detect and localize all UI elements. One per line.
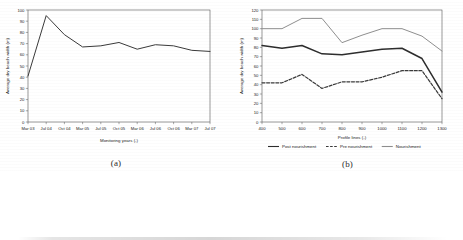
y-axis-label-b: Average dry beach width (m) — [239, 37, 244, 94]
y-tick-label: 20 — [254, 101, 259, 106]
x-axis-ticks-a: Mar 03Jul 04Oct 04Mar 05Jul 05Oct 05Mar … — [21, 122, 216, 131]
y-tick-label: 70 — [20, 41, 25, 46]
y-tick-label: 80 — [254, 45, 259, 50]
y-tick-label: 40 — [254, 82, 259, 87]
x-tick-label: Oct 06 — [167, 126, 180, 131]
x-tick-label: Mar 07 — [185, 126, 199, 131]
y-tick-label: 50 — [254, 73, 259, 78]
x-tick-label: Oct 04 — [58, 126, 71, 131]
chart-panel-a: 0102030405060708090100 Mar 03Jul 04Oct 0… — [0, 0, 232, 171]
x-tick-label: 800 — [339, 126, 347, 131]
legend-label: Nourishment — [396, 144, 422, 149]
y-tick-label: 30 — [254, 92, 259, 97]
y-tick-label: 20 — [20, 97, 25, 102]
x-tick-label: Mar 06 — [131, 126, 145, 131]
plot-frame — [262, 10, 442, 122]
y-tick-label: 80 — [20, 30, 25, 35]
x-tick-label: Jul 04 — [41, 126, 53, 131]
y-tick-label: 90 — [20, 19, 25, 24]
y-tick-label: 70 — [254, 54, 259, 59]
y-tick-label: 40 — [20, 75, 25, 80]
x-axis-label-b: Profile lines (-) — [338, 135, 367, 140]
y-tick-label: 0 — [22, 120, 25, 125]
x-tick-label: Jul 06 — [150, 126, 162, 131]
series-line — [262, 45, 442, 92]
chart-panel-b: 0102030405060708090100110120 40050060070… — [232, 0, 463, 171]
y-tick-label: 100 — [251, 26, 259, 31]
y-tick-label: 110 — [252, 17, 259, 22]
x-tick-label: 400 — [259, 126, 267, 131]
y-axis-ticks-b: 0102030405060708090100110120 — [251, 8, 262, 125]
x-tick-label: Mar 05 — [76, 126, 90, 131]
panel-caption-b: (b) — [232, 159, 463, 169]
panel-caption-a: (a) — [0, 158, 232, 168]
legend-label: Post nourishment — [282, 144, 317, 149]
y-tick-label: 90 — [254, 36, 259, 41]
x-axis-label-a: Monitoring years (-) — [100, 138, 139, 143]
series-line — [262, 18, 442, 51]
y-tick-label: 100 — [17, 8, 25, 13]
legend-label: Pre nourishment — [340, 144, 373, 149]
data-series-group-b — [262, 18, 442, 98]
axis-frame-a — [28, 10, 210, 122]
plot-frame — [28, 10, 210, 122]
series-line — [28, 16, 210, 76]
line-chart-a: 0102030405060708090100 Mar 03Jul 04Oct 0… — [0, 0, 232, 150]
y-tick-label: 10 — [20, 108, 25, 113]
x-tick-label: 1300 — [437, 126, 447, 131]
x-tick-label: Jul 07 — [204, 126, 216, 131]
y-tick-label: 50 — [20, 64, 25, 69]
figure-container: 0102030405060708090100 Mar 03Jul 04Oct 0… — [0, 0, 463, 171]
plot-area-b: 0102030405060708090100110120 40050060070… — [232, 0, 463, 155]
x-tick-label: 600 — [299, 126, 307, 131]
y-tick-label: 0 — [256, 120, 259, 125]
line-chart-b: 0102030405060708090100110120 40050060070… — [232, 0, 463, 155]
x-axis-ticks-b: 4005006007008009001000110012001300 — [259, 122, 448, 131]
y-tick-label: 30 — [20, 86, 25, 91]
x-tick-label: 900 — [359, 126, 367, 131]
x-tick-label: Oct 05 — [113, 126, 126, 131]
x-tick-label: 700 — [319, 126, 327, 131]
axis-frame-b — [262, 10, 442, 122]
y-tick-label: 60 — [254, 64, 259, 69]
plot-area-a: 0102030405060708090100 Mar 03Jul 04Oct 0… — [0, 0, 232, 150]
x-tick-label: 500 — [279, 126, 287, 131]
series-line — [262, 71, 442, 99]
x-tick-label: Mar 03 — [21, 126, 35, 131]
y-axis-ticks-a: 0102030405060708090100 — [17, 8, 28, 125]
y-axis-label-a: Average dry beach width (m) — [5, 37, 10, 94]
x-tick-label: 1100 — [397, 126, 407, 131]
y-tick-label: 120 — [251, 8, 259, 13]
y-tick-label: 10 — [254, 110, 259, 115]
x-tick-label: Jul 05 — [95, 126, 107, 131]
x-tick-label: 1200 — [417, 126, 427, 131]
data-series-group-a — [28, 16, 210, 76]
x-tick-label: 1000 — [377, 126, 387, 131]
y-tick-label: 60 — [20, 52, 25, 57]
chart-legend-b: Post nourishmentPre nourishmentNourishme… — [268, 144, 421, 149]
